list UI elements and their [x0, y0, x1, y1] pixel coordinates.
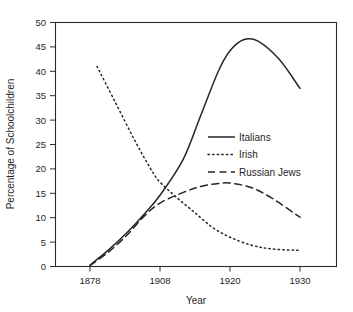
chart-figure: 05101520253035404550 1878190819201930 It…	[0, 0, 353, 312]
legend-label: Russian Jews	[239, 167, 301, 178]
y-tick-label: 40	[35, 66, 46, 77]
x-axis-ticks: 1878190819201930	[79, 267, 310, 286]
y-axis-ticks: 05101520253035404550	[35, 17, 56, 272]
legend-label: Italians	[239, 132, 271, 143]
y-tick-label: 10	[35, 212, 46, 223]
chart-legend: ItaliansIrishRussian Jews	[208, 132, 301, 178]
y-tick-label: 20	[35, 163, 46, 174]
y-tick-label: 0	[41, 261, 46, 272]
line-chart: 05101520253035404550 1878190819201930 It…	[0, 0, 353, 312]
series-group	[90, 38, 300, 265]
y-tick-label: 15	[35, 188, 46, 199]
y-tick-label: 45	[35, 41, 46, 52]
y-tick-label: 25	[35, 139, 46, 150]
x-tick-label: 1930	[289, 275, 310, 286]
series-line-irish	[97, 66, 300, 250]
x-tick-label: 1908	[149, 275, 170, 286]
x-tick-label: 1920	[219, 275, 240, 286]
series-line-italians	[90, 38, 300, 265]
y-tick-label: 50	[35, 17, 46, 28]
legend-label: Irish	[239, 149, 258, 160]
plot-frame	[56, 23, 337, 267]
x-axis-title: Year	[186, 295, 207, 306]
y-tick-label: 5	[41, 237, 46, 248]
y-tick-label: 30	[35, 115, 46, 126]
series-line-russian-jews	[90, 183, 300, 266]
y-tick-label: 35	[35, 90, 46, 101]
y-axis-title: Percentage of Schoolchildren	[5, 79, 16, 210]
x-tick-label: 1878	[79, 275, 100, 286]
